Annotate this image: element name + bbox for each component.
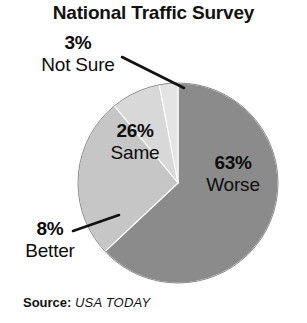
slice-name-better: Better — [2, 240, 98, 262]
slice-name-worse: Worse — [190, 174, 276, 196]
slice-percent-better: 8% — [2, 218, 98, 240]
slice-label-same: 26% Same — [92, 120, 178, 164]
source-value: USA TODAY — [75, 295, 150, 310]
pie-chart-figure: National Traffic Survey 3% Not Sure 26% … — [0, 0, 307, 323]
slice-label-worse: 63% Worse — [190, 152, 276, 196]
slice-name-not-sure: Not Sure — [8, 54, 148, 76]
slice-label-not-sure: 3% Not Sure — [8, 32, 148, 76]
slice-percent-same: 26% — [92, 120, 178, 142]
slice-label-better: 8% Better — [2, 218, 98, 262]
slice-percent-not-sure: 3% — [8, 32, 148, 54]
slice-percent-worse: 63% — [190, 152, 276, 174]
slice-name-same: Same — [92, 142, 178, 164]
source-attribution: Source: USA TODAY — [23, 294, 150, 311]
source-label: Source: — [23, 295, 71, 310]
